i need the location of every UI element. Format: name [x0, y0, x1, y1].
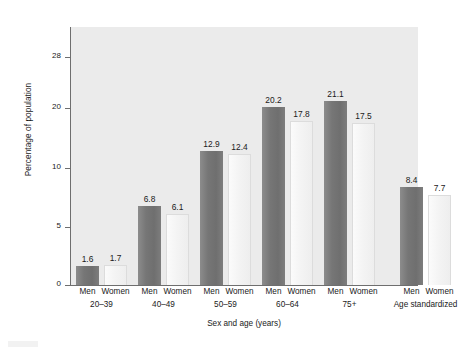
bar-men-60-64 [262, 107, 285, 285]
figure-footer-mark [8, 341, 38, 347]
bar-men-20-39 [76, 266, 99, 285]
y-axis-title: Percentage of population [24, 50, 33, 210]
x-axis-labels: MenWomen20–39MenWomen40–49MenWomen50–59M… [70, 287, 418, 317]
y-axis-tick: 10 [0, 168, 70, 169]
bar-value-label: 17.5 [344, 111, 384, 121]
bar-women-50-59 [228, 154, 251, 285]
y-axis-tick-label: 28 [21, 51, 61, 60]
bar-women-75- [352, 123, 375, 285]
x-axis-group-label: Age standardized [381, 300, 462, 309]
bar-women-40-49 [166, 214, 189, 285]
x-axis-title: Sex and age (years) [70, 319, 418, 328]
bar-men-75- [324, 101, 347, 285]
y-axis-tick: 5 [0, 227, 70, 228]
bar-value-label: 1.7 [96, 253, 136, 263]
bar-men-40-49 [138, 206, 161, 285]
bar-value-label: 12.4 [220, 142, 260, 152]
y-axis-tick-label: 0 [21, 279, 61, 288]
bar-value-label: 20.2 [254, 95, 294, 105]
y-axis-tick: 28 [0, 57, 70, 58]
bar-women-20-39 [104, 265, 127, 285]
bar-value-label: 6.1 [158, 202, 198, 212]
y-axis-tick: 0 [0, 285, 70, 286]
bars-layer: 1.61.76.86.112.912.420.217.821.117.58.47… [70, 27, 418, 285]
bar-women-60-64 [290, 121, 313, 285]
bar-value-label: 17.8 [282, 109, 322, 119]
bar-men-age-standardized [400, 187, 423, 285]
bar-value-label: 7.7 [420, 183, 460, 193]
y-axis-tick-label: 20 [21, 102, 61, 111]
y-axis-tick-label: 10 [21, 162, 61, 171]
x-axis-sex-label: Women [418, 287, 462, 296]
bar-women-age-standardized [428, 195, 451, 285]
y-axis-tick-label: 5 [21, 221, 61, 230]
y-axis-tick: 20 [0, 108, 70, 109]
x-axis-sex-label: Women [342, 287, 386, 296]
bar-men-50-59 [200, 151, 223, 285]
bar-value-label: 21.1 [316, 89, 356, 99]
y-axis-tick-mark [65, 285, 70, 286]
